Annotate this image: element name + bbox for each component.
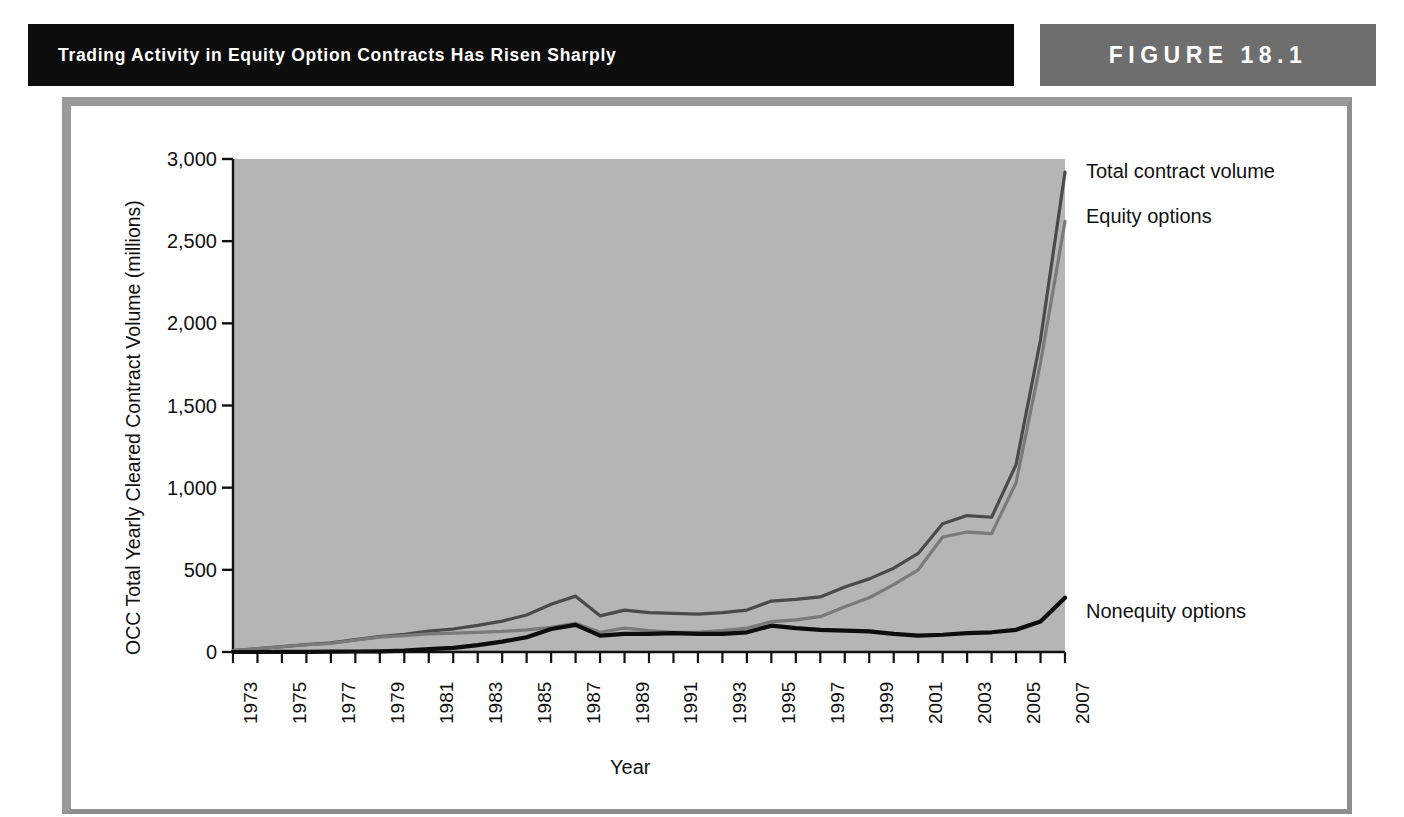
series-label-nonequity-options: Nonequity options <box>1086 600 1246 623</box>
x-axis-tick-label: 1985 <box>534 682 556 724</box>
x-axis-tick-label: 1979 <box>387 682 409 724</box>
x-axis-tick-label: 1983 <box>485 682 507 724</box>
x-axis-title: Year <box>610 756 650 779</box>
x-axis-tick-label: 1993 <box>729 682 751 724</box>
x-axis-tick-label: 1995 <box>778 682 800 724</box>
y-axis-tick-label: 0 <box>206 641 217 664</box>
y-axis-title: OCC Total Yearly Cleared Contract Volume… <box>122 200 145 655</box>
x-axis-tick-label: 1989 <box>632 682 654 724</box>
figure-number-badge: FIGURE 18.1 <box>1040 24 1376 86</box>
title-banner: Trading Activity in Equity Option Contra… <box>28 24 1014 86</box>
figure-header: Trading Activity in Equity Option Contra… <box>0 24 1404 86</box>
y-axis-tick-label: 1,500 <box>167 394 217 417</box>
x-axis-tick-label: 2001 <box>925 682 947 724</box>
page-title: Trading Activity in Equity Option Contra… <box>28 45 616 66</box>
y-axis-tick-label: 2,000 <box>167 312 217 335</box>
x-axis-tick-label: 2003 <box>974 682 996 724</box>
x-axis-tick-label: 1997 <box>827 682 849 724</box>
series-label-total-contract-volume: Total contract volume <box>1086 160 1275 183</box>
y-axis-tick-label: 500 <box>184 558 217 581</box>
x-axis-tick-label: 2007 <box>1072 682 1094 724</box>
x-axis-tick-label: 1981 <box>436 682 458 724</box>
series-label-equity-options: Equity options <box>1086 205 1212 228</box>
figure-number-label: FIGURE 18.1 <box>1109 42 1308 69</box>
x-axis-tick-label: 1975 <box>289 682 311 724</box>
x-axis-tick-label: 1977 <box>338 682 360 724</box>
x-axis-tick-label: 1987 <box>583 682 605 724</box>
y-axis-tick-label: 3,000 <box>167 148 217 171</box>
x-axis-tick-label: 2005 <box>1023 682 1045 724</box>
x-axis-tick-label: 1973 <box>240 682 262 724</box>
x-axis-tick-label: 1991 <box>680 682 702 724</box>
y-axis-tick-label: 1,000 <box>167 476 217 499</box>
y-axis-tick-label: 2,500 <box>167 230 217 253</box>
x-axis-tick-label: 1999 <box>876 682 898 724</box>
